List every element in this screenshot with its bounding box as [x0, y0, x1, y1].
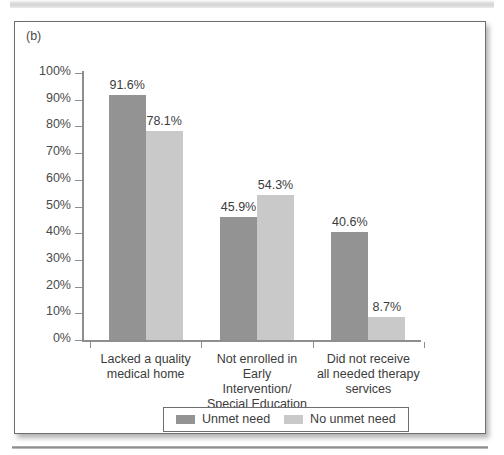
y-axis-tick-mark — [75, 126, 82, 127]
y-axis-line — [82, 71, 84, 342]
legend-label: No unmet need — [310, 412, 395, 426]
y-axis-tick-label: 40% — [46, 224, 71, 238]
y-axis-tick-mark — [75, 260, 82, 261]
x-axis-tick-mark — [90, 342, 91, 348]
chart-legend: Unmet needNo unmet need — [163, 407, 409, 432]
x-axis-tick-mark — [201, 342, 202, 348]
y-axis-tick-mark — [75, 340, 82, 341]
bar-value-label: 54.3% — [258, 178, 293, 192]
y-axis-tick-label: 80% — [46, 117, 71, 131]
y-axis-tick-label: 0% — [53, 331, 71, 345]
y-axis-tick-label: 20% — [46, 278, 71, 292]
figure-frame: (b) 100%90%80%70%60%50%40%30%20%10%0% 91… — [14, 21, 486, 434]
category-label: Not enrolled in Early Intervention/ Spec… — [201, 352, 312, 412]
page-top-band — [10, 0, 494, 8]
bar: 91.6% — [109, 95, 146, 340]
bar-value-label: 78.1% — [146, 114, 181, 128]
y-axis-tick-label: 30% — [46, 251, 71, 265]
y-axis-tick-mark — [75, 153, 82, 154]
y-axis-tick-mark — [75, 233, 82, 234]
legend-entry: Unmet need — [176, 412, 270, 426]
bar-value-label: 91.6% — [109, 78, 144, 92]
y-axis-tick-mark — [75, 287, 82, 288]
bar-value-label: 45.9% — [221, 200, 256, 214]
y-axis-tick-label: 100% — [39, 64, 71, 78]
y-axis-tick-label: 70% — [46, 144, 71, 158]
bar-value-label: 8.7% — [373, 300, 402, 314]
bar: 78.1% — [146, 131, 183, 340]
legend-swatch — [176, 415, 195, 424]
y-axis-tick-label: 50% — [46, 198, 71, 212]
y-axis-tick-mark — [75, 73, 82, 74]
x-axis-line — [82, 340, 421, 342]
y-axis-tick-mark — [75, 207, 82, 208]
x-axis-tick-mark — [424, 342, 425, 348]
bar: 8.7% — [368, 317, 405, 340]
bar-value-label: 40.6% — [332, 215, 367, 229]
category-label: Did not receive all needed therapy servi… — [313, 352, 424, 397]
y-axis-tick-label: 10% — [46, 304, 71, 318]
page-bottom-rule — [12, 446, 488, 449]
legend-entry: No unmet need — [284, 412, 395, 426]
y-axis-tick-label: 60% — [46, 171, 71, 185]
y-axis-tick-mark — [75, 313, 82, 314]
x-axis-tick-mark — [313, 342, 314, 348]
legend-label: Unmet need — [202, 412, 270, 426]
y-axis-tick-mark — [75, 100, 82, 101]
legend-swatch — [284, 415, 303, 424]
bar: 45.9% — [220, 217, 257, 340]
bar: 54.3% — [257, 195, 294, 340]
category-label: Lacked a quality medical home — [90, 352, 201, 382]
y-axis-tick-label: 90% — [46, 91, 71, 105]
y-axis-tick-mark — [75, 180, 82, 181]
plot-area: 100%90%80%70%60%50%40%30%20%10%0% 91.6%7… — [82, 73, 416, 340]
panel-label: (b) — [26, 29, 41, 43]
bar: 40.6% — [331, 232, 368, 340]
